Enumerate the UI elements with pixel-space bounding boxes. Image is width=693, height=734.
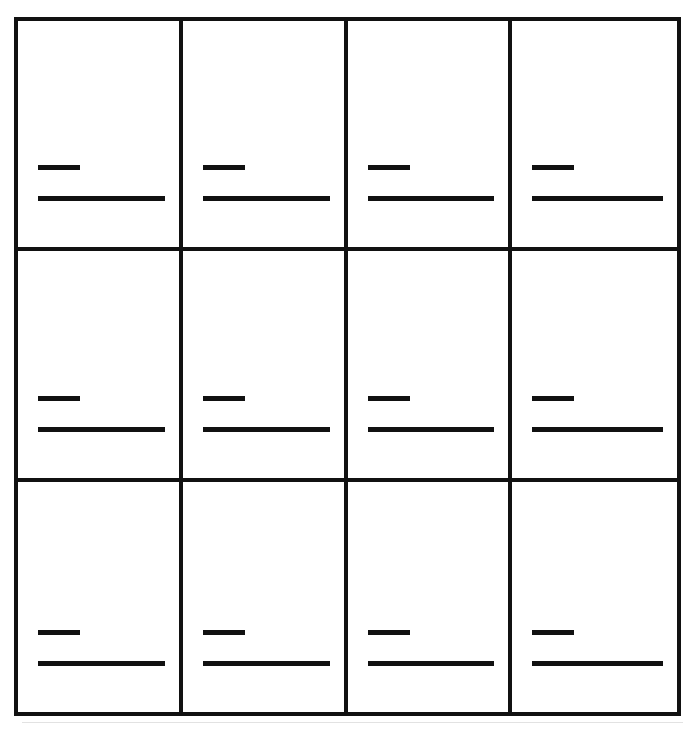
- short-rule-r3c3[interactable]: [368, 630, 410, 635]
- long-rule-r3c4[interactable]: [532, 661, 663, 666]
- cell-marks-r1c1: [38, 165, 165, 211]
- grid-cell-r3c3[interactable]: [348, 482, 513, 712]
- grid-cell-r2c1[interactable]: [18, 251, 183, 481]
- cell-marks-r2c2: [203, 396, 330, 442]
- cell-marks-r1c4: [532, 165, 663, 211]
- short-rule-r3c1[interactable]: [38, 630, 80, 635]
- short-rule-r1c1[interactable]: [38, 165, 80, 170]
- short-rule-r2c3[interactable]: [368, 396, 410, 401]
- grid-cell-r2c3[interactable]: [348, 251, 513, 481]
- cell-marks-r1c2: [203, 165, 330, 211]
- long-rule-r3c1[interactable]: [38, 661, 165, 666]
- cell-marks-r2c4: [532, 396, 663, 442]
- short-rule-r3c4[interactable]: [532, 630, 574, 635]
- long-rule-r1c3[interactable]: [368, 196, 495, 201]
- short-rule-r1c4[interactable]: [532, 165, 574, 170]
- cell-marks-r2c1: [38, 396, 165, 442]
- grid-cell-r1c4[interactable]: [512, 21, 677, 251]
- grid-cell-r1c1[interactable]: [18, 21, 183, 251]
- page-root: [0, 0, 693, 734]
- long-rule-r1c4[interactable]: [532, 196, 663, 201]
- grid-cell-r1c2[interactable]: [183, 21, 348, 251]
- short-rule-r2c2[interactable]: [203, 396, 245, 401]
- grid-cell-r3c4[interactable]: [512, 482, 677, 712]
- long-rule-r1c2[interactable]: [203, 196, 330, 201]
- long-rule-r2c4[interactable]: [532, 427, 663, 432]
- cell-marks-r1c3: [368, 165, 495, 211]
- grid-cell-r1c3[interactable]: [348, 21, 513, 251]
- long-rule-r3c2[interactable]: [203, 661, 330, 666]
- cell-marks-r3c4: [532, 630, 663, 676]
- cell-marks-r2c3: [368, 396, 495, 442]
- short-rule-r1c3[interactable]: [368, 165, 410, 170]
- grid-cell-r2c2[interactable]: [183, 251, 348, 481]
- cell-marks-r3c1: [38, 630, 165, 676]
- cell-marks-r3c3: [368, 630, 495, 676]
- grid-cell-r3c2[interactable]: [183, 482, 348, 712]
- grid-cell-r2c4[interactable]: [512, 251, 677, 481]
- cell-marks-r3c2: [203, 630, 330, 676]
- long-rule-r2c3[interactable]: [368, 427, 495, 432]
- long-rule-r2c1[interactable]: [38, 427, 165, 432]
- scan-edge-line: [22, 722, 683, 723]
- grid-frame: [14, 17, 681, 716]
- long-rule-r1c1[interactable]: [38, 196, 165, 201]
- long-rule-r2c2[interactable]: [203, 427, 330, 432]
- short-rule-r3c2[interactable]: [203, 630, 245, 635]
- short-rule-r2c1[interactable]: [38, 396, 80, 401]
- short-rule-r2c4[interactable]: [532, 396, 574, 401]
- long-rule-r3c3[interactable]: [368, 661, 495, 666]
- grid-cell-r3c1[interactable]: [18, 482, 183, 712]
- short-rule-r1c2[interactable]: [203, 165, 245, 170]
